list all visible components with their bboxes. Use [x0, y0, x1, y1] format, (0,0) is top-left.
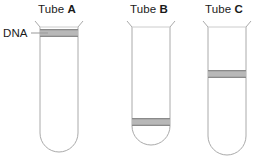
tube-b-body: [132, 27, 170, 145]
tube-a: [35, 21, 83, 152]
tube-b-band-edge-bottom: [132, 125, 170, 126]
tube-a-rim-left: [35, 21, 40, 27]
tube-c: [203, 21, 251, 155]
tube-a-band-edge-bottom: [40, 36, 78, 37]
tube-c-band-edge-bottom: [208, 77, 246, 78]
tube-b-band-edge-top: [132, 118, 170, 119]
diagram-canvas: Tube A Tube B Tube C DNA: [0, 0, 255, 166]
tube-c-rim-right: [246, 21, 251, 27]
tube-a-rim-right: [78, 21, 83, 27]
tube-b-rim-right: [170, 21, 175, 27]
tube-b: [127, 21, 175, 145]
tube-a-body: [40, 27, 78, 152]
tube-a-band-edge-top: [40, 29, 78, 30]
tube-c-dna-band: [208, 70, 246, 78]
tube-c-band-edge-top: [208, 70, 246, 71]
tube-c-body: [208, 27, 246, 155]
tube-b-rim-left: [127, 21, 132, 27]
tube-b-dna-band: [132, 118, 170, 126]
tube-c-rim-left: [203, 21, 208, 27]
tubes-diagram: [0, 0, 255, 166]
